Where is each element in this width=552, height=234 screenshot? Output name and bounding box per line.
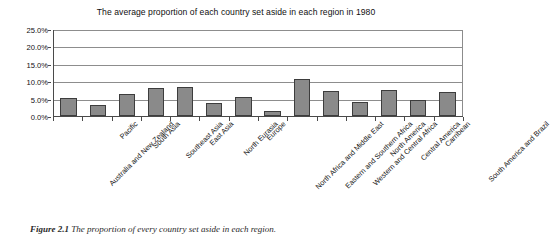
bar (410, 100, 426, 117)
bar (264, 111, 280, 116)
bar (323, 91, 339, 116)
figure-caption-label: Figure 2.1 (30, 224, 69, 234)
chart-title: The average proportion of each country s… (0, 7, 472, 17)
bar (148, 88, 164, 116)
bar-slot (404, 30, 433, 116)
bar (352, 102, 368, 116)
bar-slot (345, 30, 374, 116)
y-tick-label: 10.0% (2, 78, 48, 87)
bar-slot (54, 30, 83, 116)
bar-slot (200, 30, 229, 116)
bar-slot (258, 30, 287, 116)
y-tick-mark (48, 100, 51, 101)
bar (90, 105, 106, 116)
y-tick-label: 5.0% (2, 95, 48, 104)
bar (206, 103, 222, 116)
bar (294, 79, 310, 116)
bar-slot (375, 30, 404, 116)
bar (60, 98, 76, 116)
plot-region (53, 30, 463, 117)
bar (439, 92, 455, 116)
y-tick-mark (48, 30, 51, 31)
figure-caption: Figure 2.1 The proportion of every count… (30, 224, 276, 234)
x-tick-label: South America and Brazil (487, 118, 552, 184)
bar-slot (287, 30, 316, 116)
plot-right-edge (462, 30, 463, 116)
x-axis-labels: Australia and New ZealandPacificSouth As… (0, 118, 472, 223)
bar-slot (141, 30, 170, 116)
y-axis: 25.0%20.0%15.0%10.0%5.0%0.0% (0, 30, 48, 117)
y-tick-mark (48, 82, 51, 83)
bar-slot (171, 30, 200, 116)
bar-slot (112, 30, 141, 116)
bar (381, 90, 397, 116)
bar-slot (229, 30, 258, 116)
x-tick-label: Pacific (117, 118, 140, 141)
bar-slot (83, 30, 112, 116)
y-tick-label: 20.0% (2, 43, 48, 52)
bar-series (54, 30, 462, 116)
bar-slot (433, 30, 462, 116)
bar-slot (316, 30, 345, 116)
bar (235, 97, 251, 116)
y-tick-mark (48, 47, 51, 48)
y-tick-label: 25.0% (2, 26, 48, 35)
bar (119, 94, 135, 116)
figure-caption-text: The proportion of every country set asid… (71, 224, 276, 234)
bar (177, 87, 193, 116)
y-tick-mark (48, 65, 51, 66)
y-tick-label: 15.0% (2, 60, 48, 69)
